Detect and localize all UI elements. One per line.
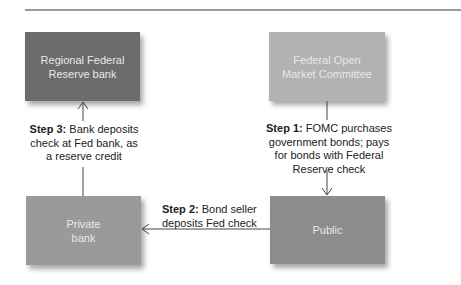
step-number: Step 1: [266,122,303,134]
step-1-label: Step 1: FOMC purchases government bonds;… [264,122,394,176]
step-number: Step 2: [162,203,199,215]
step-3-label: Step 3: Bank deposits check at Fed bank,… [22,123,146,164]
step-number: Step 3: [30,123,67,135]
step-2-label: Step 2: Bond seller deposits Fed check [150,203,277,230]
